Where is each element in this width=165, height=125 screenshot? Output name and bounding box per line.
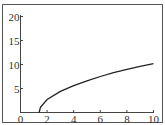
y-tick-label: 10 — [9, 59, 21, 71]
x-tick-label: 4 — [71, 113, 77, 125]
x-tick-label: 10 — [148, 113, 160, 125]
x-tick-label: 0 — [18, 113, 24, 125]
y-tick-label: 5 — [14, 83, 20, 95]
y-tick-label: 15 — [9, 35, 21, 47]
x-tick-label: 8 — [124, 113, 130, 125]
chart-canvas: 5101520 0246810 — [0, 0, 165, 125]
x-tick-label: 2 — [44, 113, 50, 125]
y-tick-label: 20 — [9, 11, 21, 23]
x-tick-label: 6 — [98, 113, 104, 125]
data-line — [39, 64, 153, 113]
